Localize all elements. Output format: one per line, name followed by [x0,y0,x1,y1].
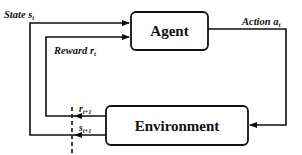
environment-node: Environment [106,106,248,145]
reward-edge: Reward rt [46,37,129,116]
agent-node: Agent [131,12,208,50]
reward-label: Reward rt [53,45,97,58]
environment-label: Environment [135,118,220,134]
state-label: State st [4,9,35,22]
agent-label: Agent [150,23,188,39]
reward-next-label: rt+1 [79,104,91,115]
rl-diagram: Agent Environment Action at State st Rew… [0,0,302,155]
action-label: Action at [241,16,281,29]
state-next-label: st+1 [78,123,91,134]
